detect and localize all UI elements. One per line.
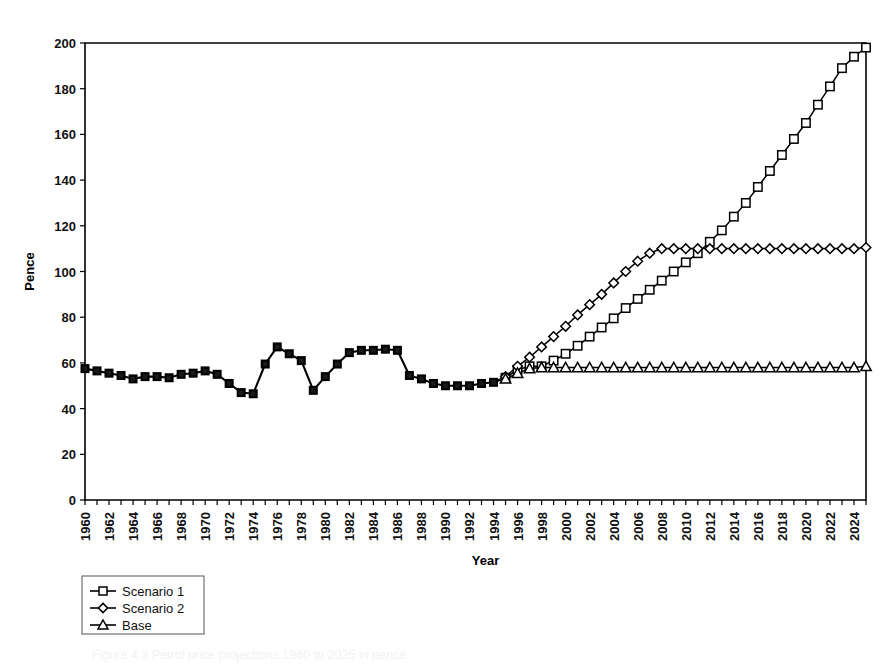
data-point-marker	[82, 365, 89, 372]
data-point-marker	[634, 295, 642, 303]
x-axis-tick-label: 1978	[294, 512, 309, 541]
x-axis-tick-label: 2002	[583, 512, 598, 541]
data-point-marker	[406, 372, 413, 379]
y-axis-tick-label: 100	[54, 265, 76, 280]
x-axis-tick-label: 2024	[847, 511, 862, 541]
data-point-marker	[742, 199, 750, 207]
legend-label-2[interactable]: Scenario 2	[122, 601, 184, 616]
x-axis-tick-label: 1972	[222, 512, 237, 541]
x-axis-tick-label: 1962	[102, 512, 117, 541]
legend-label-1[interactable]: Scenario 1	[122, 584, 184, 599]
data-point-marker	[850, 53, 858, 61]
data-point-marker	[190, 370, 197, 377]
data-point-marker	[658, 276, 666, 284]
data-point-marker	[142, 373, 149, 380]
data-point-marker	[466, 382, 473, 389]
data-point-marker	[262, 361, 269, 368]
data-point-marker	[754, 183, 762, 191]
data-point-marker	[310, 387, 317, 394]
data-point-marker	[813, 244, 823, 254]
x-axis-tick-label: 1994	[487, 511, 502, 541]
data-point-marker	[585, 332, 593, 340]
data-point-marker	[609, 314, 617, 322]
figure-container: 020406080100120140160180200Pence19601962…	[0, 0, 893, 669]
x-axis-tick-label: 1990	[438, 512, 453, 541]
x-axis-tick-label: 1976	[270, 512, 285, 541]
data-point-marker	[729, 244, 739, 254]
data-point-marker	[849, 244, 859, 254]
x-axis-title: Year	[472, 553, 499, 568]
data-point-marker	[802, 119, 810, 127]
data-point-marker	[861, 361, 871, 370]
y-axis-tick-label: 20	[62, 447, 76, 462]
y-axis-title: Pence	[22, 252, 37, 290]
data-point-marker	[202, 367, 209, 374]
data-point-marker	[286, 350, 293, 357]
x-axis-tick-label: 1968	[174, 512, 189, 541]
x-axis-tick-label: 1982	[342, 512, 357, 541]
data-point-marker	[778, 151, 786, 159]
data-point-marker	[322, 373, 329, 380]
data-point-marker	[862, 43, 870, 51]
data-point-marker	[717, 244, 727, 254]
data-point-marker	[394, 347, 401, 354]
data-point-marker	[838, 64, 846, 72]
x-axis-tick-label: 2014	[727, 511, 742, 541]
data-point-marker	[358, 347, 365, 354]
data-point-marker	[621, 304, 629, 312]
data-point-marker	[130, 375, 137, 382]
series-line-1	[494, 48, 867, 383]
data-point-marker	[861, 243, 871, 253]
data-point-marker	[106, 370, 113, 377]
x-axis-tick-label: 2006	[631, 512, 646, 541]
data-point-marker	[478, 380, 485, 387]
x-axis-tick-label: 1966	[150, 512, 165, 541]
x-axis-tick-label: 1996	[511, 512, 526, 541]
data-point-marker	[94, 367, 101, 374]
plot-frame	[85, 43, 866, 500]
data-point-marker	[645, 248, 655, 258]
data-point-marker	[670, 267, 678, 275]
data-point-marker	[597, 323, 605, 331]
data-point-marker	[454, 382, 461, 389]
x-axis-tick-label: 1992	[462, 512, 477, 541]
data-point-marker	[741, 244, 751, 254]
data-point-marker	[646, 286, 654, 294]
data-point-marker	[166, 374, 173, 381]
data-point-marker	[238, 389, 245, 396]
legend-label-3[interactable]: Base	[122, 618, 152, 633]
data-point-marker	[346, 349, 353, 356]
x-axis-tick-label: 1998	[535, 512, 550, 541]
data-point-marker	[814, 100, 822, 108]
x-axis-tick-label: 1960	[78, 512, 93, 541]
y-axis-tick-label: 0	[69, 493, 76, 508]
x-axis-tick-label: 1988	[414, 512, 429, 541]
x-axis-tick-label: 1980	[318, 512, 333, 541]
data-point-marker	[766, 167, 774, 175]
data-point-marker	[669, 244, 679, 254]
data-point-marker	[226, 380, 233, 387]
data-point-marker	[178, 371, 185, 378]
data-point-marker	[561, 350, 569, 358]
data-point-marker	[250, 390, 257, 397]
data-point-marker	[825, 244, 835, 254]
data-point-marker	[777, 244, 787, 254]
x-axis-tick-label: 2018	[775, 512, 790, 541]
data-point-marker	[99, 587, 107, 595]
data-point-marker	[682, 258, 690, 266]
x-axis-tick-label: 1974	[246, 511, 261, 541]
data-point-marker	[801, 244, 811, 254]
x-axis-tick-label: 2016	[751, 512, 766, 541]
data-point-marker	[837, 244, 847, 254]
x-axis-tick-label: 2010	[679, 512, 694, 541]
x-axis-tick-label: 2000	[559, 512, 574, 541]
data-point-marker	[826, 82, 834, 90]
line-chart: 020406080100120140160180200Pence19601962…	[0, 0, 893, 669]
x-axis-tick-label: 1970	[198, 512, 213, 541]
y-axis-tick-label: 180	[54, 82, 76, 97]
data-point-marker	[681, 244, 691, 254]
x-axis-tick-label: 2020	[799, 512, 814, 541]
x-axis-tick-label: 2004	[607, 511, 622, 541]
data-point-marker	[718, 226, 726, 234]
data-point-marker	[573, 342, 581, 350]
